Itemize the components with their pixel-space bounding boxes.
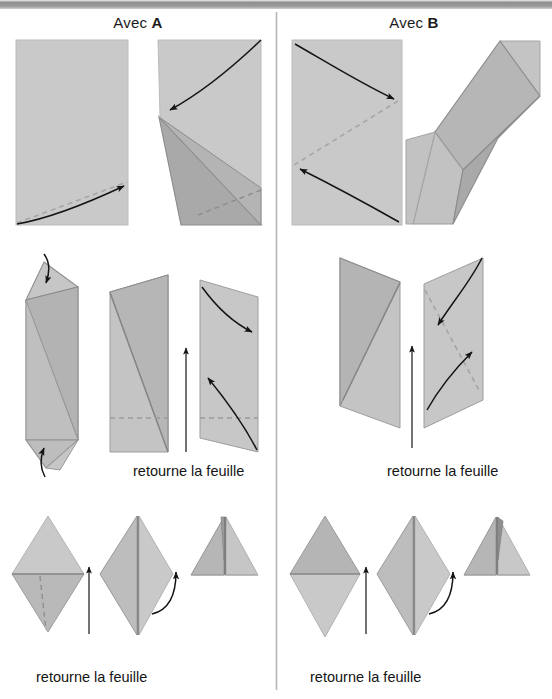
page-header-bar — [0, 0, 552, 9]
b7-left-face — [377, 516, 413, 635]
column-title-b-letter: B — [428, 14, 439, 31]
b8-dark-sliver — [497, 517, 503, 560]
a6-lower-half — [12, 574, 84, 632]
figure-b3-flipped — [340, 258, 412, 448]
figure-b6-diamond — [290, 516, 366, 637]
a2-folded-flap — [159, 117, 261, 225]
a2-upper-sheet — [158, 40, 261, 225]
fold-arrow-a5-bottom — [208, 378, 257, 450]
figure-a1-rectangle — [16, 40, 128, 225]
a8-right-face — [226, 517, 258, 575]
fold-arrow-a7 — [152, 572, 176, 614]
b2-back-sheet — [498, 41, 540, 138]
fold-arrow-b7 — [429, 572, 453, 614]
figure-a7-diamond-folded — [100, 516, 176, 635]
a7-right-face — [139, 516, 173, 635]
figure-a2-folded-triangle — [158, 40, 261, 225]
crease-dashed-b1 — [294, 101, 398, 165]
b8-right-face — [498, 517, 530, 575]
b2-big-flap — [453, 96, 540, 224]
b3-diag-crease — [343, 283, 400, 400]
a8-dark-sliver — [221, 517, 226, 560]
caption-retourne-left-mid: retourne la feuille — [133, 463, 244, 479]
crease-dashed-b4 — [425, 290, 480, 392]
a4-diag-crease — [110, 293, 168, 452]
b3-dark-wedge — [340, 258, 400, 406]
caption-retourne-right-bottom: retourne la feuille — [310, 669, 421, 685]
figure-b8-triangle — [464, 517, 530, 575]
figure-b4-fold-arrows — [424, 258, 483, 428]
a2-flap-overlap — [159, 117, 261, 225]
column-title-b: Avec B — [276, 14, 552, 31]
fold-arrow-a3-top — [44, 254, 49, 283]
fold-arrow-a3-bottom — [41, 448, 45, 477]
a3-body-light — [26, 287, 78, 440]
fold-arrow-a5-top — [202, 287, 252, 332]
figure-a5-fold-arrows — [200, 280, 258, 452]
column-title-b-prefix: Avec — [389, 14, 427, 31]
caption-retourne-right-mid: retourne la feuille — [387, 463, 498, 479]
b4-body — [424, 258, 483, 428]
b6-upper-half — [290, 516, 360, 574]
a3-bottom-tail — [46, 440, 78, 470]
figure-b2-parallelogram — [406, 41, 540, 224]
a3-bottom-flap — [26, 440, 78, 468]
a3-body-dark — [26, 287, 78, 440]
a3-diag-crease — [26, 301, 78, 440]
column-title-a-letter: A — [152, 14, 163, 31]
fold-arrow-b4-top — [438, 258, 482, 325]
column-title-a: Avec A — [0, 14, 276, 31]
a4-dark-wedge — [110, 275, 168, 452]
figure-layer — [0, 0, 552, 699]
b2-left-tip — [406, 132, 435, 224]
figure-a8-triangle — [191, 517, 258, 575]
figure-b1-rectangle — [292, 40, 402, 225]
b8-left-face — [464, 517, 496, 575]
fold-arrow-b1-top — [295, 44, 394, 99]
origami-instruction-sheet: Avec A Avec B retourne la feuille retour… — [0, 0, 552, 699]
figure-a6-diamond — [12, 516, 89, 634]
fold-arrow-a2 — [170, 40, 261, 110]
a7-left-face — [100, 516, 137, 635]
crease-dashed-a2 — [198, 190, 261, 215]
b7-right-face — [415, 516, 450, 635]
crease-dashed-a1 — [17, 182, 127, 223]
a4-body — [110, 275, 168, 452]
a5-body — [200, 280, 258, 452]
figure-b7-diamond-folded — [377, 516, 453, 635]
a8-left-face — [191, 517, 224, 575]
a6-upper-half — [12, 516, 84, 574]
fold-arrow-a1 — [17, 186, 124, 224]
column-title-a-prefix: Avec — [113, 14, 151, 31]
b3-body — [340, 258, 400, 428]
a3-top-flap — [26, 262, 78, 300]
b2-lower-face — [413, 132, 463, 224]
figure-a4-flipped — [110, 275, 186, 452]
fold-arrow-b1-bottom — [300, 169, 399, 222]
b6-lower-half — [290, 574, 360, 637]
caption-retourne-left-bottom: retourne la feuille — [36, 669, 147, 685]
b2-upper-face — [435, 41, 540, 170]
figure-a3-long-fold — [26, 254, 78, 477]
crease-dashed-a6 — [40, 576, 46, 630]
fold-arrow-b4-bottom — [427, 352, 472, 410]
a3-mid-left — [26, 300, 78, 440]
